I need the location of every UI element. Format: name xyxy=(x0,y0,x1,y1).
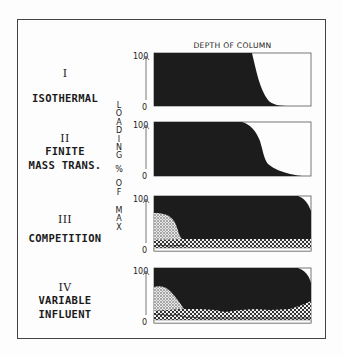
y-tick-0: 0 xyxy=(142,318,147,327)
y-axis-title: L O A D I N G % O F M A X xyxy=(113,102,125,232)
y-tick-0: 0 xyxy=(142,246,147,255)
panel-label-2: II FINITE MASS TRANS. xyxy=(22,131,108,172)
panel-name: VARIABLE xyxy=(22,294,108,308)
panel-numeral: III xyxy=(22,212,108,226)
y-tick-0: 0 xyxy=(142,172,147,181)
chart-competition: 100 0 xyxy=(130,193,320,255)
panel-numeral: IV xyxy=(22,280,108,294)
chart-isothermal: 100 0 xyxy=(130,50,320,112)
panel-label-3: III COMPETITION xyxy=(22,212,108,245)
baseline-band xyxy=(154,239,311,248)
y-tick-0: 0 xyxy=(142,103,147,112)
panel-numeral: I xyxy=(22,66,108,80)
panel-label-1: I ISOTHERMAL xyxy=(22,66,108,105)
panel-name: ISOTHERMAL xyxy=(22,91,108,105)
chart-variable-influent: 100 0 xyxy=(130,265,320,327)
panel-name: FINITE xyxy=(22,145,108,159)
panel-name: COMPETITION xyxy=(22,231,108,245)
chart-finite-mass-transfer: 100 0 xyxy=(130,119,320,181)
panel-numeral: II xyxy=(22,131,108,145)
panel-name: INFLUENT xyxy=(22,307,108,321)
panel-label-4: IV VARIABLE INFLUENT xyxy=(22,280,108,321)
panel-name: MASS TRANS. xyxy=(22,158,108,172)
column-title: DEPTH OF COLUMN xyxy=(154,41,311,50)
